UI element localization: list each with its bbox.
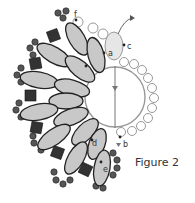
- beading-diagram: f a c b d e: [0, 0, 195, 203]
- label-d: d: [92, 139, 97, 148]
- figure-caption: Figure 2: [135, 156, 179, 169]
- arrow-b-icon: [116, 143, 121, 147]
- label-f: f: [74, 10, 77, 19]
- arrow-up-icon: [130, 15, 135, 21]
- label-b: b: [123, 140, 128, 149]
- thread-exit-path: [118, 18, 132, 34]
- label-e: e: [103, 165, 108, 174]
- label-a: a: [108, 49, 113, 58]
- label-c: c: [127, 42, 131, 51]
